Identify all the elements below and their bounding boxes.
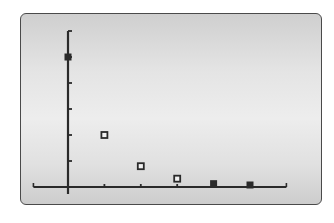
data-point [138, 163, 144, 169]
data-point [65, 54, 72, 61]
scatter-plot [0, 0, 334, 223]
data-point [101, 132, 107, 138]
data-point [210, 180, 217, 187]
data-point [247, 182, 254, 189]
data-points [65, 54, 254, 189]
data-point [174, 176, 180, 182]
